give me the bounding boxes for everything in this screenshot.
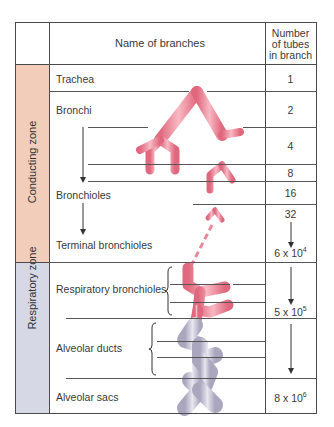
count-trachea: 1 — [265, 73, 316, 85]
branch-terminal-bronchioles: Terminal bronchioles — [56, 239, 152, 251]
zone-column-divider — [49, 22, 50, 414]
down-arrow-bronchi-icon — [78, 125, 88, 185]
row-line-gen3 — [88, 164, 317, 165]
header-divider — [15, 64, 317, 65]
count-alveolar-sacs: 8 x 106 — [265, 391, 316, 404]
count-respiratory: 5 x 105 — [265, 305, 316, 318]
row-line-resp-1b — [233, 284, 266, 285]
branch-alveolar-sacs: Alveolar sacs — [56, 391, 118, 403]
branch-alveolar-ducts: Alveolar ducts — [56, 342, 122, 354]
row-line-duct-2 — [157, 357, 266, 358]
row-line-bronchi-right — [243, 127, 317, 128]
count-gen6: 32 — [265, 208, 316, 220]
row-line-gen5 — [193, 204, 317, 205]
row-line-resp-end — [66, 318, 317, 319]
number-column-header-3: in branch — [265, 49, 316, 61]
branch-bronchioles: Bronchioles — [56, 189, 111, 201]
row-line-trachea — [49, 91, 189, 92]
row-line-trachea-right — [207, 91, 317, 92]
brace-respiratory-bronchioles-icon — [164, 266, 174, 316]
brace-alveolar-ducts-icon — [148, 322, 158, 376]
name-column-header: Name of branches — [115, 37, 205, 49]
zone-divider — [15, 262, 49, 263]
branch-respiratory-bronchioles: Respiratory bronchioles — [56, 283, 166, 295]
count-terminal: 6 x 104 — [265, 246, 316, 259]
count-gen5: 16 — [265, 187, 316, 199]
row-line-resp-2 — [170, 302, 266, 303]
table-border-left — [15, 22, 16, 414]
table-border-right — [316, 22, 317, 414]
count-bronchi: 2 — [265, 104, 316, 116]
row-line-resp-1 — [170, 284, 230, 285]
row-line-terminal — [49, 262, 317, 263]
row-line-bronchi — [88, 127, 148, 128]
table-border-bottom — [15, 413, 317, 414]
down-arrow-count-respiratory-icon — [286, 267, 296, 307]
table-border-top — [15, 22, 317, 23]
row-line-gen4 — [88, 181, 317, 182]
down-arrow-count-ducts-icon — [286, 324, 296, 376]
row-line-duct-1 — [157, 341, 266, 342]
down-arrow-bronchioles-icon — [78, 203, 88, 237]
count-gen4: 8 — [265, 167, 316, 179]
branch-trachea: Trachea — [56, 73, 94, 85]
branch-bronchi: Bronchi — [56, 104, 92, 116]
row-line-duct-end — [66, 378, 317, 379]
count-gen3: 4 — [265, 140, 316, 152]
